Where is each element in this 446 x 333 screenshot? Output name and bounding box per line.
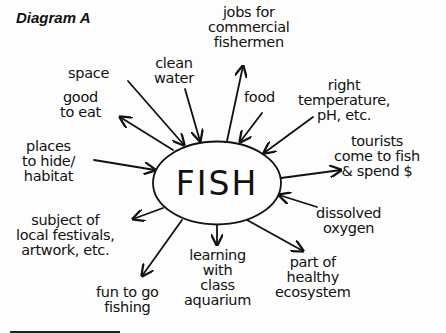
node-tourists: tourists come to fish & spend $ bbox=[334, 134, 420, 179]
node-food: food bbox=[244, 90, 275, 105]
node-right-temp: right temperature, pH, etc. bbox=[298, 78, 390, 123]
diagram-canvas: Diagram A bbox=[0, 0, 446, 333]
node-festivals: subject of local festivals, artwork, etc… bbox=[16, 213, 115, 258]
center-label: FISH bbox=[153, 142, 281, 225]
node-space: space bbox=[68, 66, 109, 81]
node-dissolved-oxygen: dissolved oxygen bbox=[316, 206, 381, 236]
node-jobs: jobs for commercial fishermen bbox=[208, 5, 290, 50]
arrow-places-to-hide bbox=[94, 160, 155, 170]
arrow-jobs bbox=[227, 66, 243, 141]
arrow-tourists bbox=[281, 170, 341, 178]
node-fun-fishing: fun to go fishing bbox=[96, 285, 159, 315]
node-clean-water: clean water bbox=[154, 56, 194, 86]
arrow-space bbox=[128, 81, 184, 145]
node-good-to-eat: good to eat bbox=[60, 90, 101, 120]
node-ecosystem: part of healthy ecosystem bbox=[275, 255, 351, 300]
arrow-food bbox=[240, 113, 262, 142]
arrow-fun-fishing bbox=[142, 220, 182, 276]
arrow-dissolved-oxygen bbox=[279, 195, 317, 207]
arrow-clean-water bbox=[185, 89, 200, 141]
node-places-to-hide: places to hide/ habitat bbox=[22, 139, 75, 184]
node-learning: learning with class aquarium bbox=[184, 248, 251, 308]
